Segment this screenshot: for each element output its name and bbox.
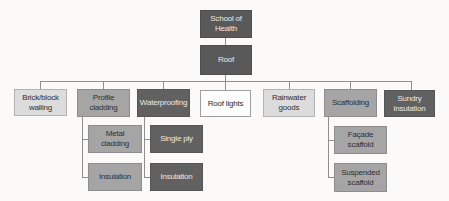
- node-roof-lights: Roof lights: [200, 90, 251, 117]
- node-profile-cladding: Profile cladding: [77, 89, 130, 117]
- node-insulation-under-cladding-label: Insulation: [99, 172, 131, 182]
- node-profile-cladding-label: Profile cladding: [80, 93, 127, 113]
- node-single-ply-label: Single ply: [160, 134, 193, 144]
- node-facade-scaffold-label: Façade scaffold: [337, 130, 384, 150]
- node-facade-scaffold: Façade scaffold: [334, 126, 387, 154]
- connector-waterproofing-children-vertical: [144, 117, 145, 177]
- connector-stub-profile: [103, 81, 104, 89]
- node-rainwater-goods-label: Rainwater goods: [266, 93, 312, 113]
- node-school-of-health-label: School of Health: [203, 14, 249, 34]
- node-sundry-insulation-label: Sundry insulation: [387, 94, 432, 114]
- node-metal-cladding-label: Metal cladding: [91, 129, 139, 149]
- node-suspended-scaffold: Suspended scaffold: [334, 163, 387, 192]
- node-rainwater-goods: Rainwater goods: [263, 89, 315, 117]
- node-sundry-insulation: Sundry insulation: [384, 90, 435, 117]
- connector-main-horizontal: [40, 81, 412, 82]
- node-waterproofing-label: Waterproofing: [140, 98, 187, 108]
- node-insulation-under-waterproofing-label: Insulation: [160, 172, 192, 182]
- connector-scaffolding-children-vertical: [328, 117, 329, 177]
- node-roof-lights-label: Roof lights: [208, 99, 244, 109]
- node-suspended-scaffold-label: Suspended scaffold: [337, 168, 384, 188]
- node-roof: Roof: [200, 45, 252, 75]
- node-scaffolding: Scaffolding: [324, 89, 377, 117]
- node-waterproofing: Waterproofing: [137, 89, 190, 117]
- node-single-ply: Single ply: [150, 125, 203, 153]
- node-metal-cladding: Metal cladding: [88, 125, 142, 153]
- org-chart-diagram: School of Health Roof Brick/block wallin…: [0, 0, 449, 201]
- connector-stub-sundry: [411, 81, 412, 90]
- node-brick-block-walling: Brick/block walling: [14, 89, 67, 116]
- node-school-of-health: School of Health: [200, 10, 252, 38]
- connector-profile-children-vertical: [82, 117, 83, 177]
- node-insulation-under-waterproofing: Insulation: [150, 163, 203, 191]
- connector-roof-down: [225, 75, 226, 90]
- connector-root-to-roof: [225, 38, 226, 45]
- connector-stub-waterproofing: [163, 81, 164, 89]
- connector-stub-rainwater: [289, 81, 290, 89]
- node-scaffolding-label: Scaffolding: [332, 98, 369, 108]
- connector-stub-brick: [40, 81, 41, 89]
- node-insulation-under-cladding: Insulation: [88, 163, 142, 191]
- node-brick-block-walling-label: Brick/block walling: [17, 93, 64, 113]
- node-roof-label: Roof: [218, 55, 234, 65]
- connector-stub-scaffolding: [350, 81, 351, 89]
